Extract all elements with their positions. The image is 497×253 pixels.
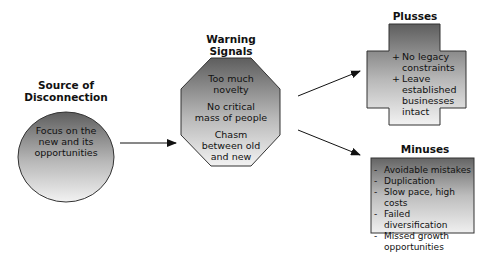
warning-item-line: No critical: [183, 101, 279, 112]
source-body-line: Focus on the: [24, 125, 108, 136]
warning-item-line: mass of people: [183, 112, 279, 123]
warning-title-line: Signals: [181, 45, 281, 57]
warning-item-line: novelty: [183, 84, 279, 95]
plusses-title: Plusses: [380, 10, 450, 22]
minuses-item: - Duplication: [374, 176, 474, 187]
source-title-line: Disconnection: [10, 91, 122, 103]
source-title: Source of Disconnection: [10, 79, 122, 103]
source-title-line: Source of: [10, 79, 122, 91]
warning-body: Too much novelty No critical mass of peo…: [183, 73, 279, 168]
minus-marker: -: [374, 209, 377, 220]
minuses-title: Minuses: [385, 143, 465, 155]
warning-item-line: Chasm: [183, 129, 279, 140]
plusses-item: + Leave established businesses intact: [392, 73, 464, 117]
arrow-warning-to-plusses: [298, 71, 360, 96]
warning-item-line: between old: [183, 140, 279, 151]
minuses-item-text: Duplication: [384, 176, 435, 186]
minuses-item-text: Missed growth opportunities: [384, 231, 449, 252]
minus-marker: -: [374, 165, 377, 176]
minus-marker: -: [374, 187, 377, 198]
source-body-line: opportunities: [24, 147, 108, 158]
plus-marker: +: [392, 73, 400, 84]
plusses-item: + No legacy constraints: [392, 51, 464, 73]
minuses-item-text: Avoidable mistakes: [384, 165, 471, 175]
minuses-item-text: Failed diversification: [384, 209, 447, 230]
warning-item: Chasm between old and new: [183, 129, 279, 162]
arrow-warning-to-minuses: [298, 130, 360, 155]
minuses-item: - Slow pace, high costs: [374, 187, 474, 209]
minuses-item-text: Slow pace, high costs: [384, 187, 455, 208]
warning-title: Warning Signals: [181, 33, 281, 57]
minuses-item: - Avoidable mistakes: [374, 165, 474, 176]
plusses-item-text: Leave established businesses intact: [402, 73, 457, 117]
plusses-list: + No legacy constraints + Leave establis…: [392, 51, 464, 117]
minus-marker: -: [374, 176, 377, 187]
warning-item-line: Too much: [183, 73, 279, 84]
warning-item-line: and new: [183, 151, 279, 162]
warning-item: Too much novelty: [183, 73, 279, 95]
source-body: Focus on the new and its opportunities: [24, 125, 108, 158]
plus-marker: +: [392, 51, 400, 62]
source-body-line: new and its: [24, 136, 108, 147]
minuses-item: - Missed growth opportunities: [374, 231, 474, 253]
plusses-item-text: No legacy constraints: [402, 51, 455, 73]
minuses-list: - Avoidable mistakes - Duplication - Slo…: [374, 165, 474, 253]
minus-marker: -: [374, 231, 377, 242]
warning-title-line: Warning: [181, 33, 281, 45]
warning-item: No critical mass of people: [183, 101, 279, 123]
minuses-item: - Failed diversification: [374, 209, 474, 231]
